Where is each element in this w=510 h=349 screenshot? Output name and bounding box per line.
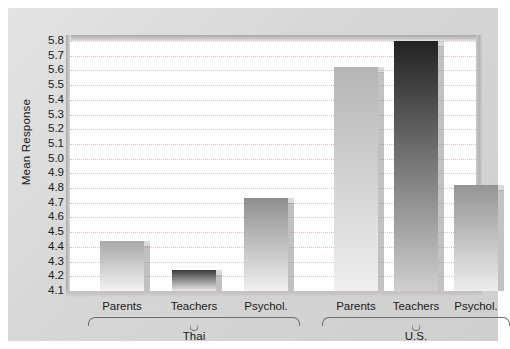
group-label: U.S. (405, 330, 427, 342)
y-axis-tick-label: 4.2 (20, 271, 64, 283)
bar (172, 270, 216, 291)
bar-body (394, 41, 438, 291)
bar-body (172, 270, 216, 291)
gridline (70, 291, 476, 293)
y-axis-title: Mean Response (20, 82, 32, 202)
group-label: Thai (183, 330, 205, 342)
bar-shadow (216, 275, 222, 291)
x-axis-tick-label: Teachers (171, 300, 218, 312)
y-axis-tick-label: 5.7 (20, 50, 64, 62)
bar-shadow (498, 190, 504, 291)
y-axis-tick-label: 4.5 (20, 226, 64, 238)
bar (334, 67, 378, 291)
plot-area (70, 41, 476, 291)
bar-shadow (144, 246, 150, 291)
y-axis-tick-label: 4.1 (20, 285, 64, 297)
bar-shadow-cap (378, 67, 384, 73)
bar-shadow-cap (144, 241, 150, 247)
bar-shadow-cap (288, 198, 294, 204)
y-axis-tick-label: 4.6 (20, 212, 64, 224)
bar-shadow-cap (216, 270, 222, 276)
y-axis-tick-label: 4.4 (20, 241, 64, 253)
x-axis-tick-labels: ParentsTeachersPsychol.ParentsTeachersPs… (70, 300, 476, 318)
x-axis-tick-label: Psychol. (244, 300, 287, 312)
bar-body (244, 198, 288, 291)
y-axis-tick-label: 5.8 (20, 35, 64, 47)
x-axis-tick-label: Teachers (393, 300, 440, 312)
bar-shadow-cap (438, 41, 444, 47)
y-axis-tick-label: 4.3 (20, 256, 64, 268)
bar-shadow-cap (498, 185, 504, 191)
bar-shadow (438, 46, 444, 291)
bar (454, 185, 498, 291)
bar (100, 241, 144, 291)
x-axis-tick-label: Parents (102, 300, 142, 312)
bar-shadow (288, 203, 294, 291)
bar (394, 41, 438, 291)
bar (244, 198, 288, 291)
chart-card: 5.85.75.65.55.45.35.25.15.04.94.84.74.64… (8, 8, 498, 341)
bar-body (454, 185, 498, 291)
bar-body (334, 67, 378, 291)
bar-shadow (378, 72, 384, 291)
y-axis-tick-label: 5.6 (20, 65, 64, 77)
x-axis-tick-label: Parents (336, 300, 376, 312)
x-axis-tick-label: Psychol. (454, 300, 497, 312)
bar-body (100, 241, 144, 291)
